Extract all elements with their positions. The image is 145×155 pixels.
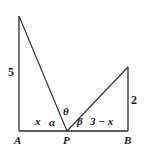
label-angle-alpha: α [49,117,55,128]
segment-left-apex-P [19,16,67,131]
diagram-canvas [0,0,145,155]
label-angle-beta: β [77,116,83,127]
label-angle-theta: θ [63,106,69,117]
label-right-base-3-minus-x: 3 − x [90,116,113,127]
label-left-base-x: x [35,116,41,127]
geometry-diagram: 5 2 x 3 − x α θ β A P B [0,0,145,155]
label-vertex-P: P [63,135,70,146]
label-vertex-A: A [14,135,21,146]
label-left-height: 5 [8,66,14,78]
label-vertex-B: B [124,135,131,146]
label-right-height: 2 [131,94,137,106]
